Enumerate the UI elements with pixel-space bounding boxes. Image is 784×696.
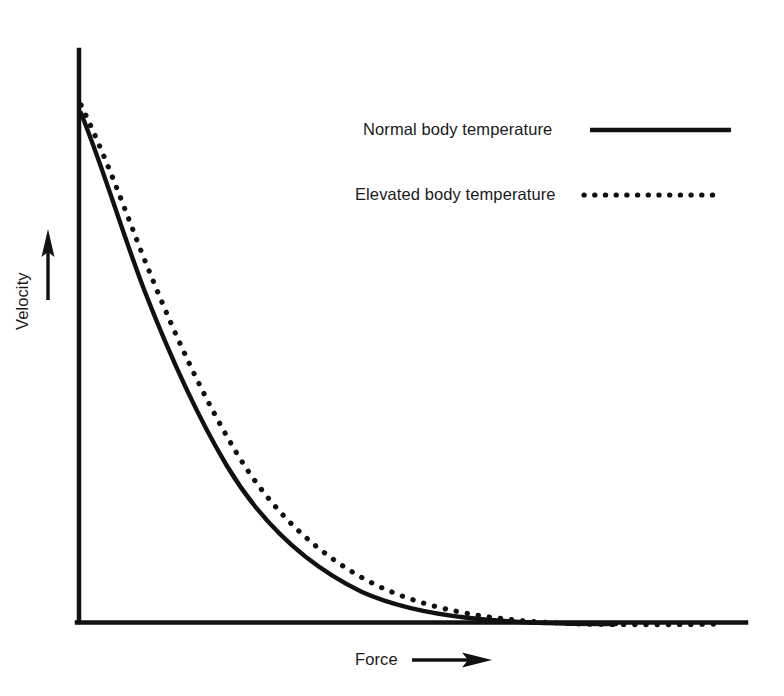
legend-item-elevated-body-temperature: Elevated body temperature bbox=[355, 185, 556, 204]
y-axis-title: Velocity bbox=[13, 272, 32, 330]
x-axis-arrow-icon bbox=[412, 653, 492, 668]
chart-canvas bbox=[0, 0, 784, 696]
chart-figure: Normal body temperature Elevated body te… bbox=[0, 0, 784, 696]
x-axis-title: Force bbox=[355, 650, 398, 669]
legend-item-normal-body-temperature: Normal body temperature bbox=[363, 120, 552, 139]
y-axis-arrow-icon bbox=[42, 229, 55, 300]
